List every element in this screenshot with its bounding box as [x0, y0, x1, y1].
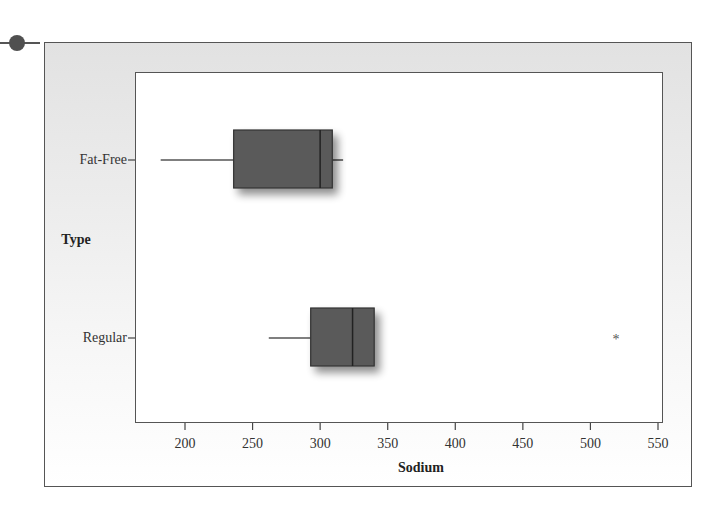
category-label-fat-free: Fat-Free [80, 152, 127, 167]
x-tick-label: 350 [377, 436, 398, 451]
x-tick-label: 400 [445, 436, 466, 451]
x-tick-label: 300 [310, 436, 331, 451]
iqr-box [311, 308, 375, 366]
series-layer: * [161, 130, 620, 366]
x-tick-label: 450 [512, 436, 533, 451]
y-axis-label: Type [61, 232, 90, 247]
x-axis-label: Sodium [398, 460, 444, 475]
axis-layer: 200250300350400450500550 [128, 160, 669, 451]
category-label-regular: Regular [83, 330, 128, 345]
boxplot-chart: * 200250300350400450500550 Type Sodium F… [0, 0, 723, 510]
box-regular: * [269, 308, 620, 366]
iqr-box [234, 130, 333, 188]
x-tick-label: 250 [242, 436, 263, 451]
x-tick-label: 550 [648, 436, 669, 451]
x-tick-label: 200 [175, 436, 196, 451]
x-tick-label: 500 [580, 436, 601, 451]
box-fat-free [161, 130, 343, 188]
outlier-marker: * [613, 332, 620, 347]
